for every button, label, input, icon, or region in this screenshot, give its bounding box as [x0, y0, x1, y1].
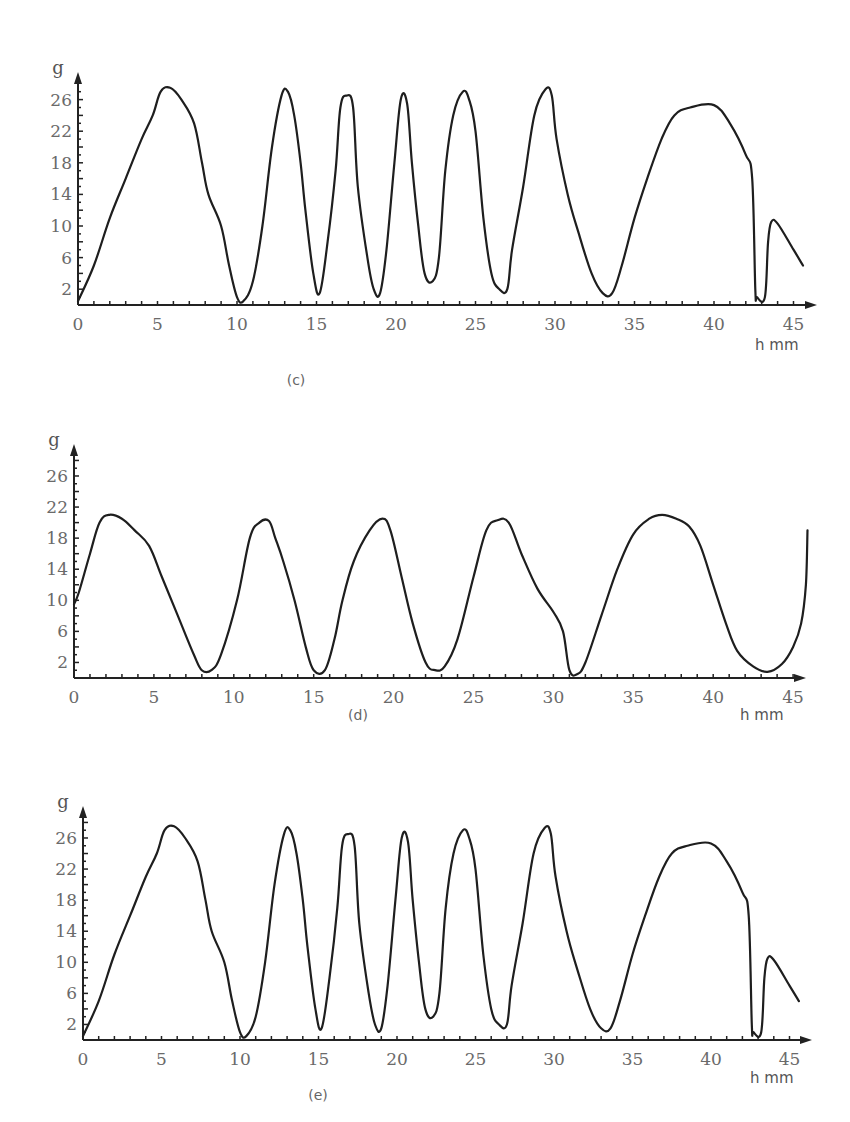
x-tick-label: 45 [782, 687, 804, 707]
x-axis-label: h mm [740, 706, 784, 724]
chart-panel-c: 051015202530354045261014182226gh mm(c) [50, 57, 817, 388]
x-tick-label: 25 [465, 1049, 487, 1069]
y-tick-label: 26 [46, 466, 68, 486]
panel-label: (c) [287, 372, 306, 388]
y-tick-label: 2 [57, 652, 68, 672]
x-tick-label: 25 [465, 314, 487, 334]
x-tick-label: 15 [308, 1049, 330, 1069]
y-tick-label: 6 [61, 248, 72, 268]
x-tick-label: 5 [152, 314, 163, 334]
x-tick-label: 5 [148, 687, 159, 707]
y-axis-arrow-icon [74, 72, 82, 84]
series-line [83, 826, 799, 1038]
x-tick-label: 20 [385, 314, 407, 334]
y-tick-label: 26 [50, 90, 72, 110]
x-tick-label: 15 [303, 687, 325, 707]
y-axis-arrow-icon [70, 444, 78, 456]
x-tick-label: 35 [624, 314, 646, 334]
y-tick-label: 2 [61, 279, 72, 299]
y-tick-label: 22 [46, 497, 68, 517]
panel-label: (e) [308, 1087, 328, 1103]
y-tick-label: 26 [55, 828, 77, 848]
y-tick-label: 6 [57, 621, 68, 641]
x-tick-label: 20 [383, 687, 405, 707]
x-tick-label: 5 [156, 1049, 167, 1069]
y-axis-label: g [57, 791, 69, 812]
x-tick-label: 30 [544, 314, 566, 334]
y-tick-label: 14 [55, 921, 77, 941]
x-tick-label: 20 [386, 1049, 408, 1069]
x-axis-label: h mm [755, 336, 799, 354]
y-tick-label: 6 [66, 983, 77, 1003]
y-axis-arrow-icon [79, 806, 87, 818]
x-axis-arrow-icon [794, 674, 806, 682]
x-tick-label: 40 [700, 1049, 722, 1069]
panel-label: (d) [348, 707, 368, 723]
y-tick-label: 18 [55, 890, 77, 910]
x-axis-arrow-icon [805, 301, 817, 309]
chart-panel-e: 051015202530354045261014182226gh mm(e) [55, 791, 812, 1103]
series-line [78, 87, 803, 303]
x-tick-label: 25 [463, 687, 485, 707]
x-axis-arrow-icon [800, 1036, 812, 1044]
y-axis-label: g [52, 57, 64, 78]
x-tick-label: 0 [69, 687, 80, 707]
y-axis-label: g [48, 429, 60, 450]
x-tick-label: 35 [622, 1049, 644, 1069]
y-tick-label: 14 [46, 559, 68, 579]
y-tick-label: 22 [55, 859, 77, 879]
y-tick-label: 18 [50, 153, 72, 173]
x-tick-label: 40 [703, 314, 725, 334]
x-tick-label: 10 [229, 1049, 251, 1069]
x-tick-label: 15 [306, 314, 328, 334]
x-tick-label: 10 [223, 687, 245, 707]
x-tick-label: 35 [622, 687, 644, 707]
x-tick-label: 40 [702, 687, 724, 707]
x-tick-label: 30 [543, 1049, 565, 1069]
y-tick-label: 2 [66, 1014, 77, 1034]
x-tick-label: 45 [779, 1049, 801, 1069]
y-tick-label: 18 [46, 528, 68, 548]
y-tick-label: 10 [55, 952, 77, 972]
x-tick-label: 45 [783, 314, 805, 334]
y-tick-label: 14 [50, 184, 72, 204]
y-tick-label: 10 [50, 216, 72, 236]
y-tick-label: 22 [50, 121, 72, 141]
x-tick-label: 0 [73, 314, 84, 334]
figure: 051015202530354045261014182226gh mm(c) 0… [0, 0, 850, 1122]
chart-panel-d: 051015202530354045261014182226gh mm(d) [46, 429, 807, 724]
y-tick-label: 10 [46, 590, 68, 610]
x-tick-label: 0 [78, 1049, 89, 1069]
x-tick-label: 30 [543, 687, 565, 707]
x-axis-label: h mm [750, 1069, 794, 1087]
x-tick-label: 10 [226, 314, 248, 334]
series-line [74, 515, 808, 676]
